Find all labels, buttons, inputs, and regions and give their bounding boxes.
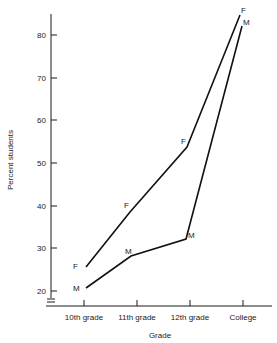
x-tick-label-10th-grade: 10th grade — [65, 313, 104, 322]
y-tick-label-70: 70 — [37, 74, 46, 83]
x-ticks — [84, 300, 243, 306]
point-label-m-college: M — [243, 18, 250, 27]
y-tick-label-30: 30 — [37, 244, 46, 253]
point-label-f-college: F — [241, 6, 246, 15]
point-label-m-10th: M — [73, 284, 80, 293]
point-label-f-11th: F — [124, 201, 129, 210]
y-tick-label-80: 80 — [37, 31, 46, 40]
y-tick-label-60: 60 — [37, 116, 46, 125]
x-tick-label-12th-grade: 12th grade — [171, 313, 210, 322]
y-tick-label-40: 40 — [37, 202, 46, 211]
y-tick-label-20: 20 — [37, 287, 46, 296]
y-axis-title: Percent students — [6, 130, 15, 190]
y-ticks — [51, 35, 57, 291]
series-line-m — [86, 26, 242, 288]
point-label-m-11th: M — [125, 247, 132, 256]
x-tick-label-college: College — [229, 313, 257, 322]
series-line-f — [86, 15, 240, 267]
line-chart: 80 70 60 50 40 30 20 10th grade 11th gra… — [0, 0, 277, 343]
x-axis-title: Grade — [149, 331, 172, 340]
axis-break-icon — [47, 299, 55, 302]
point-label-m-12th: M — [188, 231, 195, 240]
point-label-f-10th: F — [73, 262, 78, 271]
y-tick-label-50: 50 — [37, 159, 46, 168]
chart-container: 80 70 60 50 40 30 20 10th grade 11th gra… — [0, 0, 277, 343]
x-tick-label-11th-grade: 11th grade — [118, 313, 156, 322]
point-label-f-12th: F — [181, 137, 186, 146]
